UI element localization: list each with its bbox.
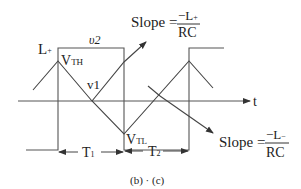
slope-top-arrow xyxy=(124,41,147,134)
t2-label: T2 xyxy=(148,144,161,159)
time-axis-label: t xyxy=(253,94,257,109)
slope-top-denominator: RC xyxy=(178,25,197,40)
slope-top-numerator: −L+ xyxy=(178,8,198,23)
triangle-wave-label: v1 xyxy=(87,77,100,92)
vtl-label: VTL xyxy=(126,132,147,147)
figure-caption: (b) · (c) xyxy=(130,174,165,187)
level-high-label: L+ xyxy=(38,41,52,57)
t1-label: T1 xyxy=(82,145,95,160)
slope-bottom-numerator: −L− xyxy=(266,127,286,142)
triangle-wave xyxy=(33,61,213,134)
vth-label: VTH xyxy=(61,53,84,68)
slope-top-prefix: Slope = xyxy=(131,14,177,30)
falling-ramp-arrow xyxy=(189,61,208,80)
square-wave-label: υ2 xyxy=(89,33,101,47)
slope-bottom-prefix: Slope = xyxy=(219,134,265,150)
falling-from-peak xyxy=(148,86,160,96)
slope-bottom-arrow xyxy=(160,96,213,133)
falling-ramp-second xyxy=(124,62,148,86)
slope-bottom-denominator: RC xyxy=(266,145,285,160)
relaxation-oscillator-waveform-diagram: t L+ υ2 VTH v1 VTL T1 T2 Slope = −L+ RC … xyxy=(0,0,301,189)
rising-ramp-with-arrow xyxy=(92,42,146,101)
falling-ramp-with-arrow xyxy=(196,70,213,88)
